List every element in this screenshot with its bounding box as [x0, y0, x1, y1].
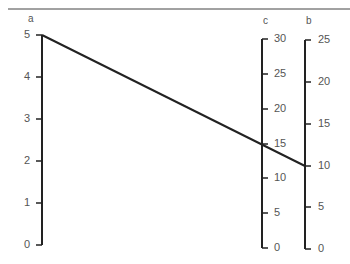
tick-label: 15	[274, 137, 286, 149]
tick-label: 10	[318, 159, 330, 171]
axis-a-label: a	[28, 13, 34, 24]
tick-label: 0	[24, 238, 30, 250]
tick-label: 25	[318, 33, 330, 45]
tick-label: 5	[274, 206, 280, 218]
axis-b-label: b	[306, 15, 312, 26]
axis-a: a 0 1 2 3 4 5	[24, 13, 42, 250]
nomogram: a 0 1 2 3 4 5 c 0 5 10 15	[0, 0, 350, 264]
axis-c: c 0 5 10 15 20 25 30	[262, 15, 286, 253]
tick-label: 30	[274, 32, 286, 44]
tick-label: 25	[274, 67, 286, 79]
tick-label: 10	[274, 171, 286, 183]
tick-label: 3	[24, 112, 30, 124]
tick-label: 15	[318, 117, 330, 129]
axis-c-label: c	[263, 15, 268, 26]
tick-label: 5	[24, 28, 30, 40]
tick-label: 20	[274, 102, 286, 114]
tick-label: 5	[318, 200, 324, 212]
tick-label: 2	[24, 154, 30, 166]
tick-label: 1	[24, 196, 30, 208]
tick-label: 0	[274, 241, 280, 253]
axis-b: b 0 5 10 15 20 25	[305, 15, 330, 254]
isopleth-line	[42, 35, 305, 166]
tick-label: 0	[318, 242, 324, 254]
tick-label: 20	[318, 75, 330, 87]
tick-label: 4	[24, 70, 30, 82]
